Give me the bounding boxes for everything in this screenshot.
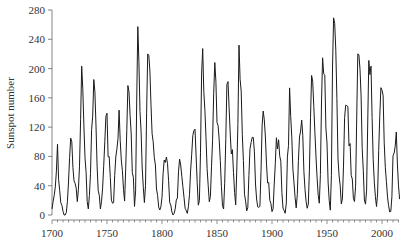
x-tick-label: 1800 — [151, 227, 174, 239]
y-tick-label: 160 — [29, 92, 46, 104]
sunspot-series-line — [52, 18, 400, 215]
x-tick-label: 1900 — [261, 227, 284, 239]
y-tick-label: 280 — [29, 4, 46, 16]
y-axis: 04080120160200240280 — [29, 4, 53, 221]
y-tick-label: 80 — [34, 150, 46, 162]
x-tick-label: 1700 — [41, 227, 64, 239]
x-tick-label: 1950 — [316, 227, 339, 239]
y-tick-label: 120 — [29, 121, 46, 133]
y-tick-label: 40 — [34, 180, 46, 192]
x-tick-label: 2000 — [371, 227, 394, 239]
y-tick-label: 240 — [29, 33, 46, 45]
y-axis-title: Sunspot number — [4, 77, 16, 149]
x-tick-label: 1850 — [206, 227, 229, 239]
sunspot-line-chart: 04080120160200240280 1700175018001850190… — [0, 0, 411, 244]
y-tick-label: 0 — [40, 209, 46, 221]
x-axis: 1700175018001850190019502000 — [41, 220, 399, 239]
y-tick-label: 200 — [29, 63, 46, 75]
x-tick-label: 1750 — [96, 227, 119, 239]
